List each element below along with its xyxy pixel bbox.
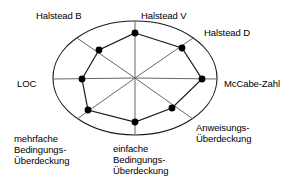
axis-line-halstead-d	[135, 38, 193, 78]
kiviat-diagram-figure: Halstead V Halstead B Halstead D McCabe-…	[0, 0, 305, 188]
data-point-einfache	[132, 119, 139, 126]
data-point-mehrfache	[85, 107, 92, 114]
axis-spokes	[53, 21, 217, 135]
axis-label-mehrfache-bedingungs-ueberdeckung: mehrfache Bedingungs- Überdeckung	[14, 133, 69, 166]
data-point-halstead-d	[179, 45, 186, 52]
axis-label-loc: LOC	[17, 78, 36, 89]
axis-label-halstead-v: Halstead V	[141, 10, 186, 21]
axis-label-einfache-bedingungs-ueberdeckung: einfache Bedingungs- Überdeckung	[113, 143, 168, 176]
data-point-mccabe	[199, 76, 206, 83]
axis-label-halstead-b: Halstead B	[36, 10, 81, 21]
axis-line-anweisungs	[135, 78, 193, 119]
axis-label-halstead-d: Halstead D	[204, 27, 250, 38]
axis-label-anweisungs-ueberdeckung: Anweisungs- Überdeckung	[196, 122, 251, 144]
data-point-loc	[79, 76, 86, 83]
axis-line-loc	[53, 78, 135, 79]
data-point-halstead-v	[132, 30, 139, 37]
data-point-anweisungs	[169, 105, 176, 112]
axis-label-mccabe-zahl: McCabe-Zahl	[224, 78, 280, 89]
data-point-markers	[79, 30, 206, 126]
data-point-halstead-b	[96, 47, 103, 54]
